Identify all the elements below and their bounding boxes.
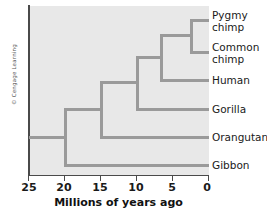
x-tick-label-0: 0 [192, 181, 222, 194]
branch-human [160, 79, 209, 82]
tip-label-human: Human [212, 74, 250, 86]
tip-label-common-chimp: Common chimp [212, 41, 259, 65]
x-tick-label-15: 15 [85, 181, 115, 194]
x-tick-label-10: 10 [121, 181, 151, 194]
branch-orangutan [100, 136, 209, 139]
branch-chimp-clade-stem [160, 34, 193, 37]
copyright-credit: © Cengage Learning [11, 44, 17, 105]
x-tick-label-20: 20 [49, 181, 79, 194]
branch-root-stem [29, 136, 66, 139]
x-axis-line [28, 175, 209, 176]
x-tick-label-5: 5 [157, 181, 187, 194]
x-axis-title: Millions of years ago [28, 196, 209, 209]
tip-label-orangutan: Orangutan [212, 131, 267, 143]
branch-great-ape-stem [64, 108, 103, 111]
phylogenetic-tree-figure: 25 20 15 10 5 0 Millions of years ago Py… [0, 0, 267, 216]
branch-hominini-stem [136, 56, 163, 59]
branch-gorilla-clade-stem [100, 81, 139, 84]
tip-label-gibbon: Gibbon [212, 159, 249, 171]
branch-gibbon [64, 164, 209, 167]
x-tick-label-25: 25 [14, 181, 44, 194]
branch-gorilla [136, 108, 209, 111]
tip-label-gorilla: Gorilla [212, 103, 246, 115]
y-axis-line [28, 5, 30, 176]
plot-area [29, 6, 209, 175]
tip-label-pygmy-chimp: Pygmy chimp [212, 9, 248, 33]
